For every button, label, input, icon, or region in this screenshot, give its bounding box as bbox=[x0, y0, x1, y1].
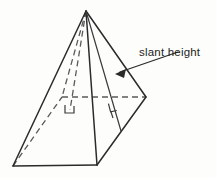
hidden-base-edge-back-left bbox=[13, 97, 62, 166]
right-angle-mark-slant bbox=[108, 104, 118, 113]
lateral-edge-right bbox=[86, 11, 146, 97]
lateral-edge-front bbox=[86, 11, 97, 165]
base-edges-group bbox=[13, 97, 146, 166]
right-angle-mark-slant-leg bbox=[111, 112, 113, 118]
leader-arrowhead-icon bbox=[115, 69, 126, 78]
pyramid-diagram: slant height bbox=[0, 0, 217, 178]
slant-height-label: slant height bbox=[139, 47, 200, 59]
right-angle-mark-altitude bbox=[65, 105, 74, 113]
hidden-edges-group bbox=[13, 11, 146, 166]
base-edge-front-left bbox=[13, 165, 97, 166]
slant-height-segment bbox=[86, 11, 121, 131]
lateral-edge-left bbox=[13, 11, 86, 166]
pyramid-drawing bbox=[0, 0, 217, 178]
